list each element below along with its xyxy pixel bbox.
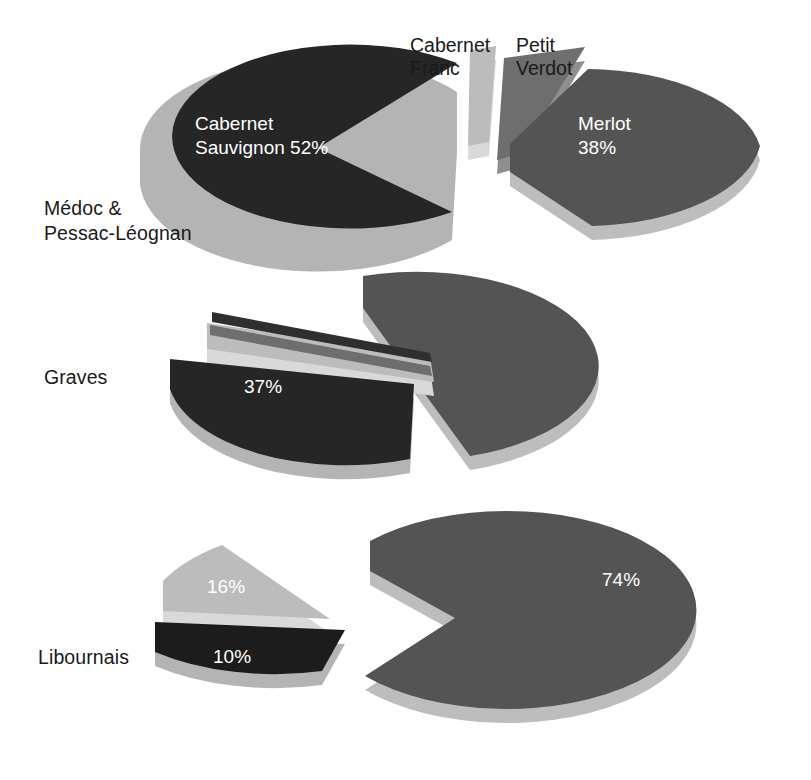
figure-canvas: Médoc & Pessac-Léognan Cabernet Franc Pe…	[0, 0, 811, 780]
pie-chart-graves	[0, 265, 811, 525]
slice-cabernet-sauvignon-libournais[interactable]	[155, 622, 345, 688]
row-label-medoc: Médoc & Pessac-Léognan	[44, 196, 192, 246]
callout-petit-verdot: Petit Verdot	[516, 34, 572, 80]
slice-cabernet-franc-libournais[interactable]	[163, 545, 330, 633]
callout-cabernet-franc: Cabernet Franc	[410, 34, 490, 80]
row-label-graves: Graves	[44, 365, 107, 390]
row-label-libournais: Libournais	[38, 645, 129, 670]
slice-merlot-libournais[interactable]	[365, 511, 696, 723]
